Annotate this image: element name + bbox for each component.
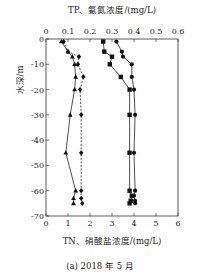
y-tick-label: -70 <box>31 212 44 221</box>
data-point-triangle <box>68 112 73 116</box>
top-tick-label: 0 <box>43 27 48 36</box>
bottom-tick-label: 2 <box>87 219 92 228</box>
data-point-circle <box>114 39 118 43</box>
data-point-diamond <box>78 87 82 92</box>
top-tick-label: 0.3 <box>106 27 119 36</box>
bottom-tick-label: 5 <box>153 219 158 228</box>
data-point-square <box>119 75 123 79</box>
data-point-circle <box>121 55 125 59</box>
y-tick-label: -40 <box>31 136 44 145</box>
y-tick-label: -10 <box>31 60 44 69</box>
y-axis-label: 水深/m <box>15 66 25 95</box>
top-tick-label: 0.5 <box>150 27 163 36</box>
series-layer <box>59 39 137 206</box>
data-point-square <box>127 189 131 193</box>
y-tick-label: -20 <box>31 86 44 95</box>
top-tick-label: 0.4 <box>128 27 141 36</box>
data-point-square <box>110 55 114 59</box>
data-point-diamond <box>79 150 83 155</box>
series-triangle <box>59 39 78 205</box>
data-point-diamond <box>80 201 84 206</box>
y-tick-label: -60 <box>31 187 44 196</box>
figure-caption: (a) 2018 年 5 月 <box>66 261 134 271</box>
data-point-circle <box>120 50 124 54</box>
data-point-square <box>101 39 105 43</box>
top-axis-label: TP、氨氮浓度/(mg/L) <box>68 5 156 15</box>
top-tick-label: 0.1 <box>62 27 75 36</box>
data-point-square <box>108 62 112 66</box>
y-tick-label: -30 <box>31 111 44 120</box>
data-point-square <box>127 87 131 91</box>
data-point-diamond <box>79 112 83 117</box>
data-point-circle <box>132 151 136 155</box>
bottom-tick-label: 1 <box>65 219 70 228</box>
data-point-circle <box>133 113 137 117</box>
data-point-triangle <box>63 150 68 154</box>
depth-profile-chart: TP、氨氮浓度/(mg/L) 00.10.20.30.40.50.6 01234… <box>0 0 201 274</box>
bottom-tick-label: 0 <box>43 219 48 228</box>
data-point-circle <box>130 62 134 66</box>
data-point-circle <box>132 194 136 198</box>
data-point-square <box>127 113 131 117</box>
data-point-circle <box>132 87 136 91</box>
data-point-triangle <box>72 87 77 91</box>
y-tick-label: -50 <box>31 161 44 170</box>
data-point-diamond <box>79 196 83 201</box>
data-point-triangle <box>71 201 76 205</box>
data-point-circle <box>133 201 137 205</box>
bottom-axis-label: TN、硝酸盐浓度/(mg/L) <box>63 236 162 246</box>
data-point-circle <box>133 189 137 193</box>
data-point-triangle <box>71 196 76 200</box>
bottom-axis-ticks: 0123456 <box>43 213 180 228</box>
data-point-square <box>102 49 106 53</box>
series-square <box>101 39 134 205</box>
data-point-square <box>127 151 131 155</box>
series-circle <box>114 39 137 205</box>
bottom-tick-label: 4 <box>131 219 136 228</box>
top-tick-label: 0.2 <box>84 27 97 36</box>
data-point-diamond <box>79 188 83 193</box>
data-point-diamond <box>81 74 85 79</box>
data-point-diamond <box>77 54 81 59</box>
data-point-square <box>127 201 131 205</box>
top-tick-label: 0.6 <box>172 27 185 36</box>
bottom-tick-label: 6 <box>175 219 180 228</box>
top-axis-ticks: 00.10.20.30.40.50.6 <box>43 27 184 42</box>
data-point-triangle <box>73 74 78 78</box>
data-point-triangle <box>73 188 78 192</box>
data-point-diamond <box>76 62 80 67</box>
bottom-tick-label: 3 <box>109 219 114 228</box>
y-tick-label: 0 <box>39 35 44 44</box>
data-point-diamond <box>61 39 65 44</box>
data-point-circle <box>130 75 134 79</box>
